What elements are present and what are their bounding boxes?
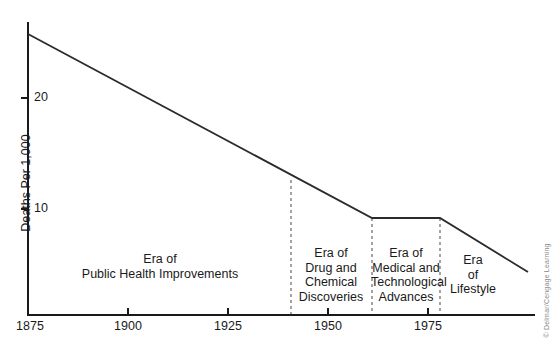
- era-label-drug-chemical: Era of Drug and Chemical Discoveries: [293, 246, 369, 304]
- death-rate-line: [28, 34, 528, 272]
- chart-figure: 20 10 Deaths Per 1,000 1875 1900 1925 19…: [0, 0, 559, 347]
- copyright-credit: © Delmar/Cengage Learning: [543, 246, 550, 338]
- era-label-lifestyle: Era of Lifestyle: [442, 253, 504, 297]
- era-label-public-health: Era of Public Health Improvements: [60, 252, 260, 281]
- era-label-medical-technological: Era of Medical and Technological Advance…: [371, 246, 441, 304]
